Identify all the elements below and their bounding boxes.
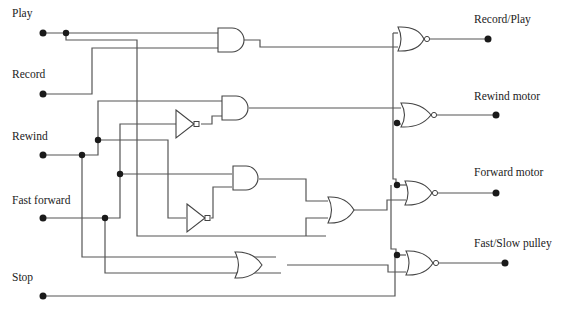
input-terminal-stop[interactable] [40, 293, 47, 300]
not-gate-1 [176, 110, 199, 138]
wire-and1-to-nor1 [244, 40, 398, 47]
input-terminal-fast-forward[interactable] [40, 215, 47, 222]
wires [43, 33, 505, 296]
wire-record-to-and1 [43, 48, 218, 94]
or-gate-1 [328, 197, 354, 223]
and-gate-1 [218, 28, 244, 52]
wire-not1-to-and2 [201, 116, 222, 124]
input-terminal-record[interactable] [40, 91, 47, 98]
junction-ff-1 [102, 215, 108, 221]
wire-rewind-main [43, 101, 222, 155]
output-terminal-fast-slow-pulley[interactable] [502, 260, 509, 267]
output-terminal-record-play[interactable] [485, 36, 492, 43]
nor-gate-2 [401, 103, 437, 127]
wire-stop [43, 255, 395, 296]
wire-or1-to-nor3 [354, 200, 406, 210]
circuit-canvas [0, 0, 564, 312]
wire-rewind-to-not2 [98, 140, 186, 218]
junction-ff-2 [117, 171, 123, 177]
input-terminal-rewind[interactable] [40, 152, 47, 159]
input-terminal-play[interactable] [40, 30, 47, 37]
nor-gate-1 [398, 27, 430, 51]
nor-gate-3 [405, 181, 438, 205]
wire-play-branch-down [66, 33, 326, 236]
wire-stop-bus [393, 33, 396, 185]
nor-gate-4 [406, 251, 439, 275]
junction-stop-nor3 [394, 182, 400, 188]
output-terminal-rewind-motor[interactable] [493, 112, 500, 119]
wire-and3-to-or1 [259, 179, 328, 201]
and-gate-3 [233, 166, 258, 190]
wire-play-to-or1 [306, 218, 328, 236]
wire-or2-to-nor4 [287, 265, 406, 272]
junction-stop-nor2 [394, 120, 400, 126]
or-gate-2 [235, 252, 262, 278]
wire-stop-bus-nor3 [391, 185, 396, 255]
junction-rewind-1 [79, 152, 85, 158]
not-gate-2 [187, 204, 210, 232]
output-terminal-forward-motor[interactable] [493, 190, 500, 197]
wire-not2-to-and3 [211, 187, 232, 218]
junction-stop-nor4 [394, 252, 400, 258]
and-gate-2 [222, 96, 248, 120]
junction-play [63, 30, 69, 36]
junction-rewind-2 [95, 137, 101, 143]
